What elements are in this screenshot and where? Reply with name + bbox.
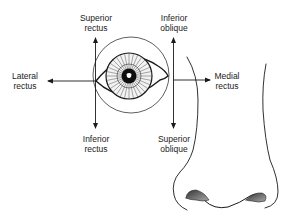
label-superior-oblique: Superior oblique: [153, 134, 195, 154]
pupil: [122, 69, 137, 84]
eye: [96, 53, 168, 99]
extraocular-muscle-diagram: [0, 0, 283, 219]
label-inferior-oblique: Inferior oblique: [154, 13, 194, 33]
label-superior-rectus: Superior rectus: [76, 13, 116, 33]
label-lateral-rectus: Lateral rectus: [7, 71, 43, 91]
label-inferior-rectus: Inferior rectus: [76, 134, 116, 154]
label-medial-rectus: Medial rectus: [210, 71, 244, 91]
